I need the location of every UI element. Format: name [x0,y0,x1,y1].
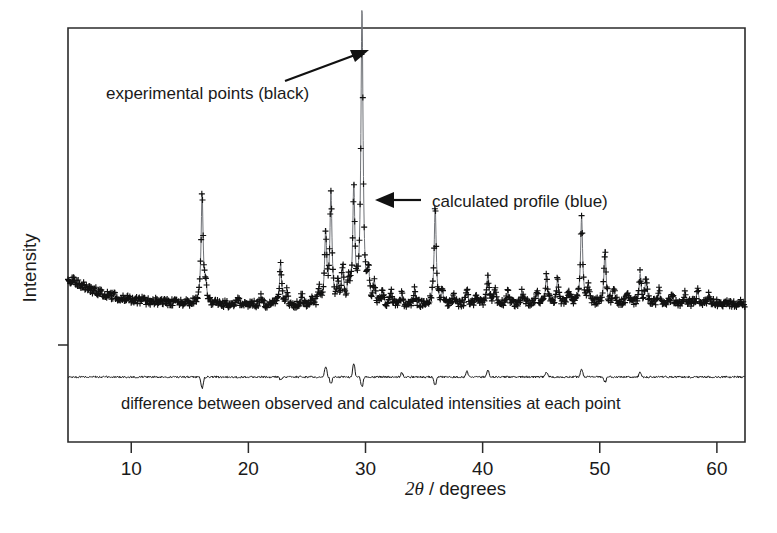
calculated-profile-label: calculated profile (blue) [432,192,608,211]
x-axis-tick-label: 20 [238,458,259,479]
plot-svg: 102030405060 experimental points (black)… [0,0,777,533]
x-axis-tick-label: 40 [472,458,493,479]
theta-symbol-icon: θ [415,478,424,499]
y-axis-title: Intensity [19,233,40,303]
x-axis-tick-label: 30 [355,458,376,479]
xrd-rietveld-figure: 102030405060 experimental points (black)… [0,0,777,533]
x-axis-title-units: / degrees [424,478,506,499]
x-axis-title: 2θ / degrees [405,478,506,499]
difference-caption: difference between observed and calculat… [121,394,621,412]
x-axis-tick-label: 60 [706,458,727,479]
experimental-points-label: experimental points (black) [106,84,309,103]
x-axis-title-number: 2 [405,478,415,499]
figure-background [0,0,777,533]
x-axis-tick-label: 10 [121,458,142,479]
x-axis-tick-label: 50 [589,458,610,479]
